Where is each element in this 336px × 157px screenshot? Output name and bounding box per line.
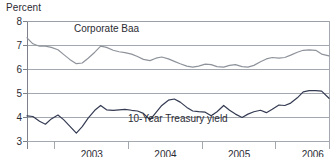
x-axis-tick-marks [55,141,276,149]
grid-lines [27,21,329,117]
series-label-treasury: 10-Year Treasury yield [128,113,228,124]
axis-lines [23,21,329,149]
series-label-corporate-baa: Corporate Baa [74,23,139,34]
plot-area [0,0,336,157]
interest-rate-line-chart: Percent 876543 2003200420052006 Corporat… [0,0,336,157]
